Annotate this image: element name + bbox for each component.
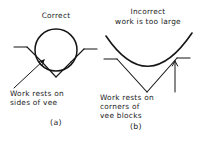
panel-b-annotation-line-1: Work rests on (100, 93, 154, 102)
vee-block-figure: Correct Work rests on sides of vee (a) I… (0, 0, 198, 141)
panel-b-annotation-line-2: corners of (100, 102, 140, 111)
leader-line-a (14, 60, 44, 88)
panel-b-caption: (b) (110, 122, 162, 131)
panel-b-annotation-line-3: vee blocks (100, 111, 142, 120)
panel-a-caption: (a) (30, 118, 82, 127)
workpiece-circle-correct (35, 29, 77, 71)
panel-b-heading-line-1: Incorrect (104, 7, 192, 16)
vee-groove-left-face-b (117, 59, 147, 92)
vee-groove-right-face-a (56, 62, 71, 77)
panel-b-heading-line-2: work is too large (100, 17, 196, 26)
vee-groove-left-face-a (42, 62, 56, 77)
panel-a-heading: Correct (30, 11, 82, 20)
panel-a-annotation-line-2: sides of vee (10, 98, 57, 107)
panel-a-annotation-line-1: Work rests on (10, 89, 64, 98)
